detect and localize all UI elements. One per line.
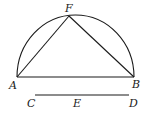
label-a: A	[8, 79, 17, 92]
semicircle-arc-ab	[17, 15, 134, 77]
label-e: E	[72, 97, 81, 110]
label-c: C	[27, 97, 36, 110]
label-b: B	[131, 78, 140, 91]
label-d: D	[128, 97, 138, 110]
label-f: F	[64, 2, 73, 15]
chord-fb	[69, 16, 134, 77]
geometry-diagram: F A B C E D	[0, 0, 150, 117]
